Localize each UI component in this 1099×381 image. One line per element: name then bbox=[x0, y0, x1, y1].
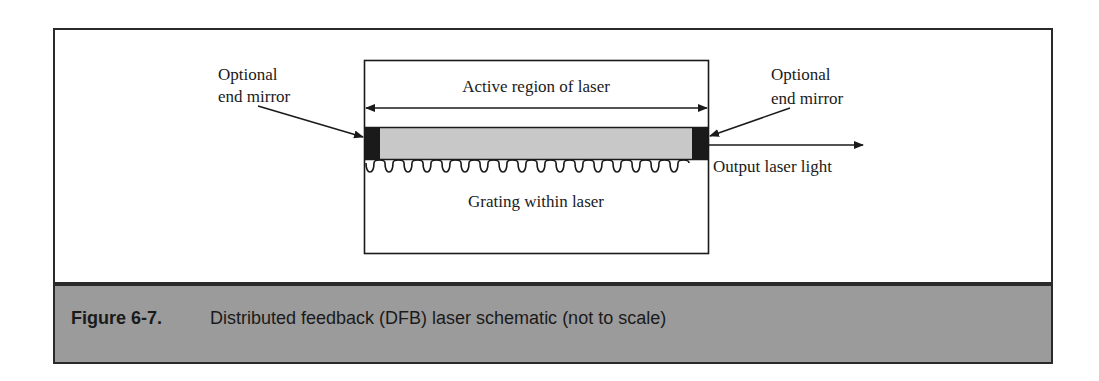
active-region-bar bbox=[365, 128, 708, 160]
left-mirror-pointer-arrow bbox=[258, 106, 363, 137]
grating-label: Grating within laser bbox=[468, 192, 604, 211]
right-mirror-label-line1: Optional bbox=[771, 65, 831, 84]
right-mirror-label-line2: end mirror bbox=[771, 89, 844, 108]
right-mirror-pointer-arrow bbox=[710, 108, 790, 136]
right-end-mirror bbox=[692, 127, 708, 160]
left-end-mirror bbox=[365, 127, 380, 160]
left-mirror-label-line2: end mirror bbox=[218, 87, 291, 106]
active-region-label: Active region of laser bbox=[462, 77, 610, 96]
dfb-laser-diagram: Active region of laser Grating within la… bbox=[0, 0, 1099, 381]
grating-wave bbox=[366, 160, 689, 172]
left-mirror-label-line1: Optional bbox=[218, 65, 278, 84]
output-light-label: Output laser light bbox=[713, 157, 832, 176]
